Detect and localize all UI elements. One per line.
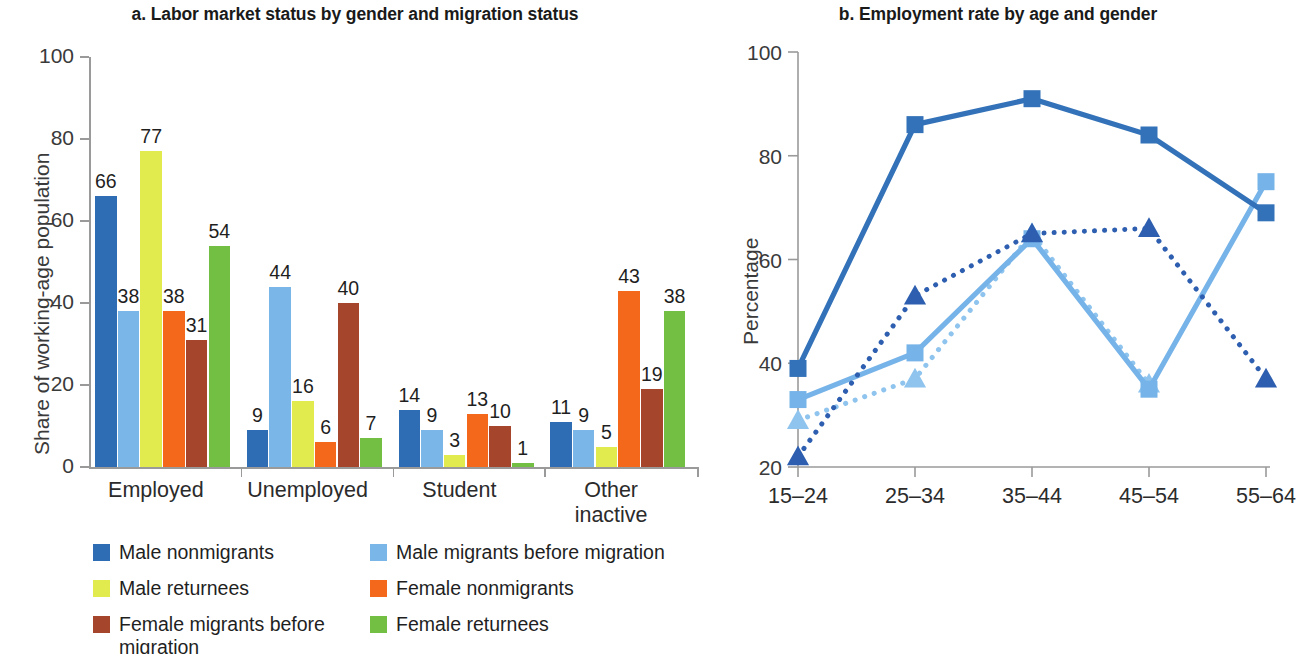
bar-value-label: 11 [551, 396, 571, 419]
legend-label: Male migrants before migration [396, 541, 665, 564]
bar-value-label: 7 [366, 412, 377, 435]
bar [269, 287, 291, 467]
legend-label: Female returnees [396, 613, 549, 636]
bar-value-label: 9 [427, 404, 438, 427]
bar [338, 303, 360, 467]
legend-item[interactable]: Male migrants before migration [370, 541, 665, 564]
panel-a-y-tick [80, 302, 89, 304]
data-point-marker [787, 409, 809, 429]
legend-label: Female nonmigrants [396, 577, 574, 600]
bar [140, 151, 162, 467]
bar-value-label: 38 [664, 285, 686, 308]
bar-value-label: 5 [601, 421, 612, 444]
panel-b-x-tick-label: 15–24 [768, 484, 828, 508]
panel-b-svg: 2040608010015–2425–3435–4445–5455–64 [706, 0, 1306, 654]
bar [596, 447, 618, 468]
bar-value-label: 3 [449, 429, 460, 452]
legend-label: Male nonmigrants [119, 541, 274, 564]
panel-a-x-category-label: Employed [108, 478, 204, 503]
panel-a-group-tick [544, 467, 546, 477]
bar-value-label: 77 [140, 125, 162, 148]
legend-label: Female migrants before migration [119, 613, 325, 654]
panel-b-y-tick-label: 60 [759, 249, 782, 272]
bar-value-label: 6 [320, 416, 331, 439]
panel-a-axis-end-tick [697, 467, 699, 477]
panel-a-group-tick [241, 467, 243, 477]
legend-item[interactable]: Female nonmigrants [370, 577, 574, 600]
bar [186, 340, 208, 467]
series-3 [787, 217, 1277, 465]
legend-label: Male returnees [119, 577, 249, 600]
data-point-marker [904, 285, 926, 305]
bar-value-label: 43 [618, 265, 640, 288]
panel-b-y-tick-label: 40 [759, 352, 782, 375]
panel-a-y-tick [80, 466, 89, 468]
panel-b-x-tick-label: 45–54 [1119, 484, 1179, 508]
data-point-marker [1024, 90, 1041, 107]
legend-color-swatch [370, 544, 387, 561]
bar [512, 463, 534, 467]
panel-a-y-tick-label: 60 [12, 208, 74, 232]
bar [444, 455, 466, 467]
bar-value-label: 31 [186, 314, 208, 337]
panel-a-y-axis-line [89, 57, 91, 467]
bar-value-label: 13 [466, 388, 488, 411]
bar [573, 430, 595, 467]
bar-value-label: 19 [641, 363, 663, 386]
series-2 [790, 173, 1275, 408]
data-point-marker [904, 368, 926, 388]
bar [467, 414, 489, 467]
legend-item[interactable]: Male returnees [93, 577, 249, 600]
data-point-marker [1138, 217, 1160, 237]
panel-b-plot-area: 2040608010015–2425–3435–4445–5455–64 [706, 0, 1306, 654]
bar [209, 246, 231, 467]
bar-value-label: 16 [292, 375, 314, 398]
bar-value-label: 38 [118, 285, 140, 308]
legend-item[interactable]: Female migrants before migration [93, 613, 325, 654]
bar [247, 430, 269, 467]
bar-value-label: 40 [337, 277, 359, 300]
bar [95, 196, 117, 467]
bar [360, 438, 382, 467]
panel-b-x-tick-label: 35–44 [1002, 484, 1062, 508]
panel-a-y-tick [80, 56, 89, 58]
bar-value-label: 9 [252, 404, 263, 427]
legend-color-swatch [93, 616, 110, 633]
data-point-marker [790, 391, 807, 408]
panel-a-y-tick-label: 100 [12, 44, 74, 68]
data-point-marker [790, 360, 807, 377]
legend-item[interactable]: Female returnees [370, 613, 549, 636]
panel-a-title: a. Labor market status by gender and mig… [10, 4, 700, 25]
bar-value-label: 14 [398, 384, 420, 407]
data-point-marker [1141, 127, 1158, 144]
data-point-marker [1258, 204, 1275, 221]
bar [489, 426, 511, 467]
panel-a-x-category-label: Other inactive [575, 478, 648, 528]
bar-value-label: 44 [269, 261, 291, 284]
legend-color-swatch [93, 580, 110, 597]
panel-a-y-tick-label: 0 [12, 454, 74, 478]
data-point-marker [1141, 381, 1158, 398]
panel-a-y-tick [80, 138, 89, 140]
series-line [798, 228, 1266, 456]
bar [315, 442, 337, 467]
bar [664, 311, 686, 467]
panel-a-bar-chart: a. Labor market status by gender and mig… [0, 0, 706, 654]
bar-value-label: 38 [163, 285, 185, 308]
bar [399, 410, 421, 467]
legend-color-swatch [93, 544, 110, 561]
legend-color-swatch [370, 580, 387, 597]
bar [550, 422, 572, 467]
panel-a-y-tick-label: 80 [12, 126, 74, 150]
panel-b-x-tick-label: 25–34 [885, 484, 945, 508]
legend-item[interactable]: Male nonmigrants [93, 541, 274, 564]
data-point-marker [907, 116, 924, 133]
bar-value-label: 9 [578, 404, 589, 427]
bar-value-label: 1 [517, 437, 528, 460]
bar [292, 401, 314, 467]
data-point-marker [907, 344, 924, 361]
panel-a-x-category-label: Student [422, 478, 496, 503]
panel-a-x-category-label: Unemployed [247, 478, 368, 503]
bar [618, 291, 640, 467]
bar [641, 389, 663, 467]
